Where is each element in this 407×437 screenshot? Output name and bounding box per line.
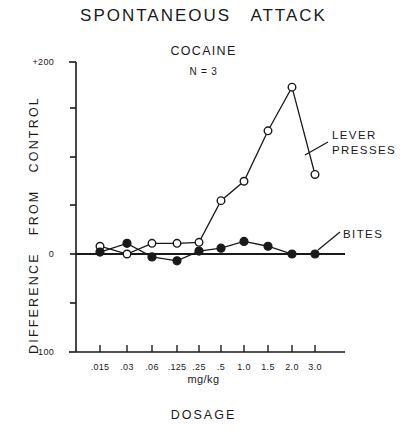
data-point bbox=[123, 239, 131, 247]
series-line bbox=[100, 87, 315, 254]
data-point bbox=[264, 127, 272, 135]
data-point bbox=[195, 247, 203, 255]
data-point bbox=[195, 239, 203, 247]
data-point bbox=[288, 250, 296, 258]
data-point bbox=[173, 240, 181, 248]
data-point bbox=[264, 242, 272, 250]
data-point bbox=[217, 197, 225, 205]
leader-line-bites bbox=[318, 232, 340, 250]
chart-plot-svg bbox=[0, 0, 407, 437]
data-point bbox=[311, 171, 319, 179]
data-point bbox=[240, 237, 248, 245]
data-point bbox=[288, 83, 296, 91]
series-lever-presses bbox=[96, 83, 319, 257]
data-point bbox=[123, 250, 131, 258]
data-point bbox=[96, 248, 104, 256]
data-point bbox=[240, 177, 248, 185]
data-point bbox=[173, 257, 181, 265]
data-point bbox=[148, 240, 156, 248]
spontaneous-attack-cocaine-chart: SPONTANEOUS ATTACK COCAINE N = 3 DIFFERE… bbox=[0, 0, 407, 437]
data-point bbox=[148, 253, 156, 261]
data-point bbox=[311, 250, 319, 258]
data-point bbox=[217, 244, 225, 252]
